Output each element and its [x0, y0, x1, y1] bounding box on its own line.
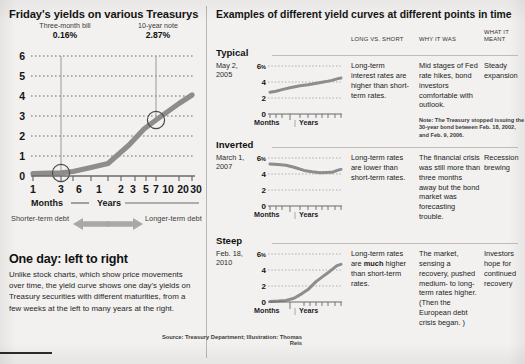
svg-text:2: 2 — [19, 130, 25, 142]
source-attribution: Source: Treasury Department; Illustratio… — [152, 334, 302, 346]
svg-text:5: 5 — [19, 70, 25, 82]
date-line-2: 2007 — [216, 162, 232, 171]
svg-text:6%: 6% — [257, 62, 266, 71]
svg-text:30: 30 — [190, 183, 202, 195]
yield-curve-line — [33, 95, 192, 174]
cell-what-it-meant-inverted: Recession brewing — [484, 153, 525, 173]
svg-text:1: 1 — [30, 183, 36, 195]
svg-text:3: 3 — [130, 183, 136, 195]
column-header-meant-line1: WHAT IT — [484, 29, 509, 35]
gridlines — [31, 56, 195, 156]
section-body: May 2, 2005 6% 4 2 0 — [216, 60, 518, 138]
svg-text:5: 5 — [143, 183, 149, 195]
cell-what-it-meant-steep: Investors hope for continued recovery — [484, 249, 525, 288]
svg-text:3: 3 — [58, 183, 64, 195]
callout-ten-year-note: 10-year note 2.87% — [121, 23, 195, 41]
column-header-long-vs-short: LONG VS. SHORT — [351, 36, 411, 43]
axis-label-months: Months — [254, 210, 294, 219]
callout-value: 2.87% — [121, 31, 195, 41]
column-header-what-it-meant: WHAT IT MEANT — [484, 29, 524, 43]
column-header-meant-line2: MEANT — [484, 36, 506, 42]
cell-why-it-was-typical: Mid stages of Fed rate hikes, bond inves… — [419, 61, 481, 110]
section-header: Typical — [216, 47, 518, 60]
section-inverted: Inverted March 1, 2007 — [216, 139, 518, 234]
axis-label-months: Months — [254, 118, 294, 127]
cell-why-it-was-steep: The market, sensing a recovery, pushed m… — [419, 249, 481, 328]
svg-text:4: 4 — [262, 170, 267, 179]
bottom-rule — [0, 352, 52, 354]
section-date-steep: Feb. 18, 2010 — [216, 250, 252, 268]
right-panel-title: Examples of different yield curves at di… — [216, 8, 518, 21]
svg-text:6%: 6% — [257, 154, 266, 163]
y-axis-tick-labels: 6% 4 2 0 — [257, 154, 267, 211]
section-header: Inverted — [216, 139, 518, 152]
date-line-1: Feb. 18, — [216, 249, 243, 258]
svg-text:1: 1 — [19, 150, 25, 162]
legend-shorter-term-label: Shorter-term debt — [11, 215, 69, 224]
column-headers: LONG VS. SHORT WHY IT WAS WHAT IT MEANT — [216, 24, 518, 46]
main-chart-svg: 6 5 4 3 2 1 0 — [9, 50, 205, 210]
section-typical: Typical May 2, 2005 6 — [216, 47, 518, 138]
gridlines — [268, 158, 342, 190]
axis-label-months: Months — [254, 306, 294, 315]
x-group-label-years: Years — [97, 198, 121, 208]
mini-axis-labels-steep: Months|Years — [254, 306, 350, 315]
callout-value: 0.16% — [23, 31, 107, 41]
yield-curve-line — [270, 78, 341, 92]
svg-text:4: 4 — [19, 90, 25, 102]
maturity-direction-legend: Shorter-term debt Longer-term debt — [9, 214, 205, 242]
cell-long-vs-short-inverted: Long-term rates are lower than short-ter… — [351, 153, 409, 183]
svg-text:2: 2 — [262, 282, 267, 291]
axis-label-years: Years — [299, 306, 329, 315]
cell-why-it-was-inverted: The financial crisis was still more than… — [419, 153, 481, 222]
section-title-inverted: Inverted — [216, 139, 253, 150]
x-axis-tick-labels: 1 3 6 1 2 3 5 7 10 20 30 — [30, 183, 202, 195]
date-line-2: 2010 — [216, 258, 232, 267]
svg-text:10: 10 — [162, 183, 174, 195]
svg-text:4: 4 — [262, 266, 267, 275]
treasury-note: Note: The Treasury stopped issuing the 3… — [419, 117, 525, 139]
mini-axis-labels-typical: Months|Years — [254, 118, 350, 127]
legend-longer-term-label: Longer-term debt — [145, 215, 203, 224]
right-panel: Examples of different yield curves at di… — [216, 8, 518, 338]
cell-long-vs-short-steep: Long-term rates are much higher than sho… — [351, 249, 409, 288]
page-title: Friday's yields on various Treasurys — [9, 8, 205, 20]
svg-text:3: 3 — [19, 110, 25, 122]
svg-text:4: 4 — [262, 78, 267, 87]
y-axis-tick-labels: 6 5 4 3 2 1 0 — [19, 50, 25, 182]
y-axis-tick-labels: 6% 4 2 0 — [257, 250, 267, 307]
section-title-typical: Typical — [216, 47, 248, 58]
axis-label-years: Years — [299, 118, 329, 127]
callout-marker-lines — [61, 56, 156, 173]
x-group-label-months: Months — [31, 198, 63, 208]
svg-text:2: 2 — [262, 186, 267, 195]
section-body: Feb. 18, 2010 6% 4 2 — [216, 248, 518, 338]
callout-row: Three-month bill 0.16% 10-year note 2.87… — [9, 23, 205, 49]
column-header-why-it-was: WHY IT WAS — [419, 36, 479, 43]
svg-text:6: 6 — [19, 50, 25, 62]
section-title-steep: Steep — [216, 235, 242, 246]
section-rule — [272, 55, 518, 56]
left-panel: Friday's yields on various Treasurys Thr… — [9, 8, 205, 314]
svg-text:20: 20 — [177, 183, 189, 195]
callout-three-month-bill: Three-month bill 0.16% — [23, 23, 107, 41]
section-date-typical: May 2, 2005 — [216, 62, 252, 80]
svg-text:6%: 6% — [257, 250, 266, 259]
axis-label-years: Years — [299, 210, 329, 219]
svg-text:1: 1 — [96, 183, 102, 195]
section-steep: Steep Feb. 18, 2010 6 — [216, 235, 518, 338]
y-axis-tick-labels: 6% 4 2 0 — [257, 62, 267, 119]
lede-heading: One day: left to right — [9, 252, 205, 266]
section-body: March 1, 2007 6% 4 2 — [216, 152, 518, 234]
section-rule — [272, 147, 518, 148]
svg-text:2: 2 — [262, 94, 267, 103]
mini-axis-labels-inverted: Months|Years — [254, 210, 350, 219]
lede-body: Unlike stock charts, which show price mo… — [9, 269, 199, 314]
lvs-emphasis: much — [364, 259, 384, 268]
section-date-inverted: March 1, 2007 — [216, 154, 252, 172]
section-rule — [272, 243, 518, 244]
svg-text:2: 2 — [118, 183, 124, 195]
yield-curve-line — [270, 164, 341, 173]
svg-text:0: 0 — [19, 170, 25, 182]
cell-long-vs-short-typical: Long-term interest rates are higher than… — [351, 61, 409, 100]
